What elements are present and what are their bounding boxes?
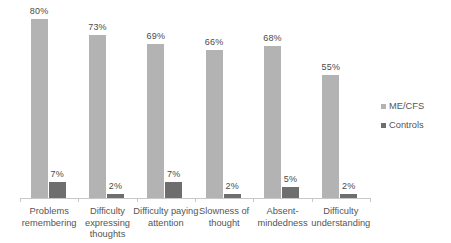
bar-controls <box>224 194 241 198</box>
bar-value-label: 7% <box>154 169 194 179</box>
bar-controls <box>49 182 66 198</box>
bar-value-label: 68% <box>253 33 293 43</box>
bar-value-label: 69% <box>136 31 176 41</box>
bar-controls <box>340 194 357 198</box>
bar-me-cfs <box>322 75 339 198</box>
bar-value-label: 2% <box>212 181 252 191</box>
bar-value-label: 5% <box>271 174 311 184</box>
x-axis-tick <box>20 198 21 202</box>
bar-value-label: 2% <box>329 181 369 191</box>
bar-value-label: 2% <box>96 181 136 191</box>
x-axis-category-label: Difficulty understanding <box>303 206 379 229</box>
x-axis-tick <box>312 198 313 202</box>
bar-chart: ME/CFS Controls 80%7%Problems rememberin… <box>0 0 451 243</box>
legend-swatch-controls <box>381 123 386 128</box>
bar-value-label: 66% <box>194 37 234 47</box>
legend-label-me-cfs: ME/CFS <box>389 101 424 111</box>
legend-item-me-cfs[interactable]: ME/CFS <box>381 101 447 111</box>
legend-item-controls[interactable]: Controls <box>381 120 447 130</box>
x-axis-tick <box>78 198 79 202</box>
x-axis-tick <box>195 198 196 202</box>
bar-value-label: 55% <box>311 62 351 72</box>
bar-me-cfs <box>206 50 223 198</box>
x-axis-tick <box>370 198 371 202</box>
bar-controls <box>282 187 299 198</box>
legend-swatch-me-cfs <box>381 104 386 109</box>
x-axis-tick <box>137 198 138 202</box>
bar-value-label: 80% <box>19 6 59 16</box>
legend-label-controls: Controls <box>389 120 424 130</box>
bar-value-label: 73% <box>78 22 118 32</box>
chart-legend: ME/CFS Controls <box>381 101 447 139</box>
bar-me-cfs <box>89 35 106 198</box>
x-axis-tick <box>253 198 254 202</box>
bar-controls <box>107 194 124 198</box>
bar-controls <box>165 182 182 198</box>
bar-value-label: 7% <box>37 169 77 179</box>
